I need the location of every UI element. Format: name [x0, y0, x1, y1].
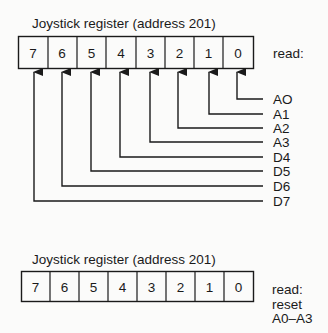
bottom-register-diagram: Joystick register (address 201) 7 6 5 4 … — [22, 252, 313, 326]
top-register-diagram: Joystick register (address 201) 7 6 5 4 … — [19, 16, 304, 209]
top-bit-3: 3 — [147, 46, 155, 61]
top-bit-7: 7 — [29, 46, 37, 61]
bottom-read-label: read: — [272, 282, 303, 297]
signal-label-bit0: AO — [273, 92, 293, 107]
signal-label-bit5: D5 — [273, 164, 290, 179]
top-bit-2: 2 — [176, 46, 184, 61]
top-bit-5: 5 — [88, 46, 96, 61]
bottom-bit-3: 3 — [148, 280, 156, 295]
bottom-a0-a3-label: A0–A3 — [272, 311, 313, 326]
bottom-bit-0: 0 — [235, 280, 243, 295]
top-bit-1: 1 — [205, 46, 213, 61]
signal-lines — [34, 72, 263, 201]
bottom-bit-4: 4 — [119, 280, 127, 295]
signal-line-bit1 — [209, 72, 263, 114]
signal-label-bit7: D7 — [273, 194, 290, 209]
signal-labels: AO A1 A2 A3 D4 D5 D6 D7 — [273, 92, 293, 209]
top-register-title: Joystick register (address 201) — [32, 16, 216, 31]
top-read-label: read: — [273, 46, 304, 61]
bottom-operation-label: read: reset A0–A3 — [272, 282, 313, 326]
signal-label-bit4: D4 — [273, 150, 291, 165]
bottom-bit-1: 1 — [206, 280, 214, 295]
bottom-register-box: 7 6 5 4 3 2 1 0 — [22, 272, 254, 302]
joystick-register-diagram: Joystick register (address 201) 7 6 5 4 … — [0, 0, 328, 333]
bottom-register-title: Joystick register (address 201) — [32, 252, 216, 267]
bottom-bit-5: 5 — [90, 280, 98, 295]
bottom-bit-2: 2 — [177, 280, 185, 295]
top-bit-4: 4 — [117, 46, 125, 61]
signal-label-bit2: A2 — [273, 121, 290, 136]
top-register-box: 7 6 5 4 3 2 1 0 — [19, 37, 254, 69]
signal-line-bit6 — [62, 72, 263, 186]
top-bit-6: 6 — [58, 46, 66, 61]
signal-label-bit6: D6 — [273, 179, 290, 194]
signal-line-bit2 — [178, 72, 263, 128]
bottom-bit-6: 6 — [61, 280, 69, 295]
signal-line-bit3 — [150, 72, 263, 142]
top-bit-0: 0 — [234, 46, 242, 61]
signal-line-bit7 — [34, 72, 263, 201]
signal-line-bit0 — [237, 72, 263, 99]
bottom-reset-label: reset — [272, 297, 302, 312]
signal-label-bit1: A1 — [273, 107, 290, 122]
bottom-bit-7: 7 — [32, 280, 40, 295]
signal-label-bit3: A3 — [273, 135, 290, 150]
